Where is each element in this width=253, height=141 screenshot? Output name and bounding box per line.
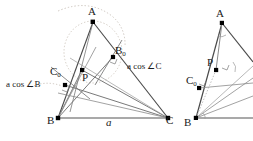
vertex-label-A: A: [88, 6, 96, 17]
geometry-figure: A B C B0 C0 P a a cos ∠C a cos ∠B A P C0…: [0, 0, 253, 141]
segment-C0-right-2: [199, 83, 253, 88]
angle-arc-P-2: [233, 62, 236, 72]
vertex-label-C0-2-subscript: 0: [193, 80, 197, 88]
secondary-figure-group: [194, 21, 253, 120]
vertex-label-B: B: [47, 115, 54, 126]
vertex-label-C: C: [166, 115, 173, 126]
segment-A-P-2: [216, 23, 222, 70]
point-A-2: [220, 21, 224, 25]
vertex-label-B0: B0: [115, 45, 126, 58]
point-A: [91, 20, 95, 24]
vertex-label-P: P: [82, 72, 88, 83]
vertex-label-C0-subscript: 0: [57, 71, 61, 79]
segment-B-ray-upper-2: [196, 66, 253, 118]
vertex-label-P-2: P: [207, 57, 213, 68]
segment-AB: [58, 22, 93, 118]
vertex-label-B0-subscript: 0: [122, 50, 126, 58]
segment-AC-2: [222, 23, 253, 62]
vertex-label-C0-2: C0: [186, 75, 197, 88]
right-angle-mark-P-2: [222, 65, 229, 70]
point-B-2: [194, 116, 198, 120]
length-label-acosB: a cos ∠B: [6, 80, 41, 89]
point-C0: [63, 83, 67, 87]
vertex-label-B-2: B: [184, 117, 191, 128]
segment-C-C0: [65, 85, 168, 118]
segment-C-P: [82, 70, 168, 118]
length-label-acosC: a cos ∠C: [127, 62, 162, 71]
vertex-label-C0: C0: [50, 66, 61, 79]
point-P-2: [214, 68, 218, 72]
point-B: [56, 116, 60, 120]
side-label-a: a: [106, 117, 112, 128]
vertex-label-A-2: A: [216, 8, 224, 19]
point-C0-2: [197, 86, 201, 90]
